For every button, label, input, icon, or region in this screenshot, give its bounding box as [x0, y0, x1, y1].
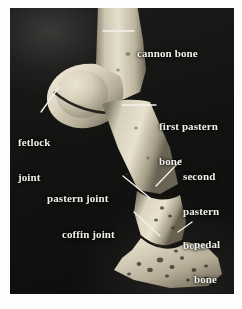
label-pedal-bone: pedal bone	[194, 216, 220, 294]
label-fetlock-joint-line1: fetlock	[18, 137, 50, 149]
label-fetlock-joint-line2: joint	[18, 172, 50, 184]
label-coffin-joint-line1: coffin joint	[62, 229, 115, 241]
anatomy-figure: cannon bone fetlock joint first pastern …	[0, 0, 242, 309]
specimen-photograph: cannon bone fetlock joint first pastern …	[10, 8, 234, 294]
figure-caption	[12, 299, 234, 308]
label-cannon-bone: cannon bone	[137, 25, 198, 83]
label-pedal-bone-line1: pedal	[194, 239, 220, 251]
label-fetlock-joint: fetlock joint	[18, 114, 50, 206]
label-second-pastern-bone-line1: second	[183, 171, 219, 183]
label-pastern-joint-line1: pastern joint	[47, 193, 109, 205]
label-coffin-joint: coffin joint	[62, 206, 115, 264]
label-first-pastern-bone-line1: first pastern	[159, 121, 218, 133]
label-cannon-bone-line1: cannon bone	[137, 48, 198, 60]
label-pedal-bone-line2: bone	[194, 274, 220, 286]
